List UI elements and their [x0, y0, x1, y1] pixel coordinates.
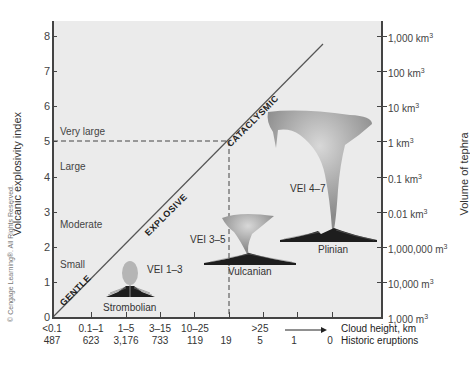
ytick-label: 4 — [38, 171, 50, 183]
rtick — [377, 141, 387, 142]
vei-vulcanian: VEI 3–5 — [190, 234, 226, 245]
cloud-height-axis-title: Cloud height, km — [341, 323, 416, 334]
historic-count: 733 — [140, 335, 180, 347]
historic-count: 623 — [71, 335, 111, 347]
tephra-label: 1 km3 — [388, 135, 414, 150]
right-axis-title: Volume of tephra — [458, 114, 470, 234]
ytick-label: 8 — [38, 30, 50, 42]
rtick — [377, 282, 387, 283]
cloud-height-label: 3–15 — [140, 323, 180, 335]
diagonal-line — [53, 44, 323, 317]
rtick — [377, 247, 387, 248]
cloud-height-label: >25 — [240, 323, 280, 335]
tephra-label: 0.1 km3 — [388, 171, 422, 186]
ytick-1 — [52, 282, 57, 283]
ytick-4 — [52, 177, 57, 178]
xtick — [332, 312, 333, 318]
ytick-label: 3 — [38, 206, 50, 218]
ytick-7 — [52, 71, 57, 72]
xtick — [229, 312, 230, 318]
size-small: Small — [60, 259, 85, 270]
name-strombolian: Strombolian — [103, 302, 156, 313]
y-axis-right — [381, 21, 383, 318]
xtick — [91, 312, 92, 318]
xtick — [297, 312, 298, 318]
historic-eruptions-title: Historic eruptions — [341, 335, 418, 346]
tephra-label: 10 km3 — [388, 100, 419, 115]
rtick — [377, 212, 387, 213]
tephra-label: 1,000 km3 — [388, 30, 433, 45]
plinian-volcano-icon — [268, 111, 377, 242]
vei-strombolian: VEI 1–3 — [147, 264, 183, 275]
ytick-8 — [52, 36, 57, 37]
ytick-label: 1 — [38, 276, 50, 288]
copyright-notice: © Cengage Learning®. All Rights Reserved… — [7, 164, 14, 344]
ytick-label: 6 — [38, 100, 50, 112]
vei-plinian: VEI 4–7 — [290, 183, 326, 194]
name-vulcanian: Vulcanian — [228, 266, 272, 277]
ytick-label: 0 — [38, 311, 50, 323]
ytick-2 — [52, 247, 57, 248]
xtick — [160, 312, 161, 318]
ytick-0 — [52, 317, 57, 318]
cloud-height-label: 10–25 — [175, 323, 215, 335]
cloud-height-label: 0.1–1 — [71, 323, 111, 335]
ytick-label: 5 — [38, 135, 50, 147]
ytick-label: 2 — [38, 241, 50, 253]
tephra-label: 1,000,000 m3 — [388, 241, 448, 256]
arrow-right-icon — [285, 326, 327, 334]
cloud-height-label: <0.1 — [32, 323, 72, 335]
historic-count: 487 — [32, 335, 72, 347]
xtick — [194, 312, 195, 318]
tephra-label: 0.01 km3 — [388, 206, 427, 221]
tephra-label: 10,000 m3 — [388, 276, 434, 291]
rtick — [377, 36, 387, 37]
historic-count: 1 — [274, 335, 314, 347]
tephra-label: 100 km3 — [388, 65, 425, 80]
size-large: Large — [60, 161, 86, 172]
rtick — [377, 177, 387, 178]
y-axis-left — [52, 21, 54, 318]
x-axis — [52, 317, 383, 319]
rtick — [377, 106, 387, 107]
ytick-3 — [52, 212, 57, 213]
ytick-6 — [52, 106, 57, 107]
size-very-large: Very large — [60, 126, 105, 137]
ytick-label: 7 — [38, 65, 50, 77]
xtick — [263, 312, 264, 318]
name-plinian: Plinian — [318, 244, 348, 255]
rtick — [377, 71, 387, 72]
ytick-5 — [52, 141, 57, 142]
size-moderate: Moderate — [60, 219, 102, 230]
